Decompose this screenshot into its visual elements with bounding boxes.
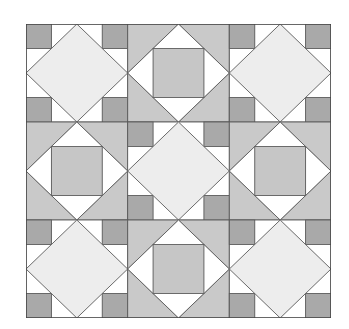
corner-square bbox=[306, 220, 331, 245]
quilt-block-b bbox=[128, 220, 230, 318]
quilt-block-b bbox=[128, 24, 230, 122]
center-square bbox=[51, 147, 102, 196]
corner-square bbox=[102, 294, 127, 319]
center-square bbox=[153, 49, 204, 98]
corner-square bbox=[102, 98, 127, 123]
quilt-block-b bbox=[26, 122, 128, 220]
quilt-block-a bbox=[26, 24, 128, 122]
corner-square bbox=[306, 24, 331, 49]
corner-square bbox=[306, 294, 331, 319]
quilt-block-a bbox=[128, 122, 230, 220]
corner-square bbox=[128, 196, 153, 221]
corner-square bbox=[204, 196, 229, 221]
center-square bbox=[153, 245, 204, 294]
corner-square bbox=[229, 98, 254, 123]
corner-square bbox=[102, 220, 127, 245]
corner-square bbox=[102, 24, 127, 49]
corner-square bbox=[229, 294, 254, 319]
corner-square bbox=[204, 122, 229, 147]
corner-square bbox=[26, 294, 51, 319]
corner-square bbox=[229, 24, 254, 49]
corner-square bbox=[229, 220, 254, 245]
quilt-block-a bbox=[26, 220, 128, 318]
corner-square bbox=[26, 98, 51, 123]
corner-square bbox=[128, 122, 153, 147]
corner-square bbox=[26, 220, 51, 245]
quilt-block-a bbox=[229, 220, 331, 318]
corner-square bbox=[26, 24, 51, 49]
center-square bbox=[255, 147, 306, 196]
quilt-block-b bbox=[229, 122, 331, 220]
quilt-block-a bbox=[229, 24, 331, 122]
corner-square bbox=[306, 98, 331, 123]
quilt-svg bbox=[26, 24, 331, 318]
quilt-diagram bbox=[26, 24, 331, 318]
